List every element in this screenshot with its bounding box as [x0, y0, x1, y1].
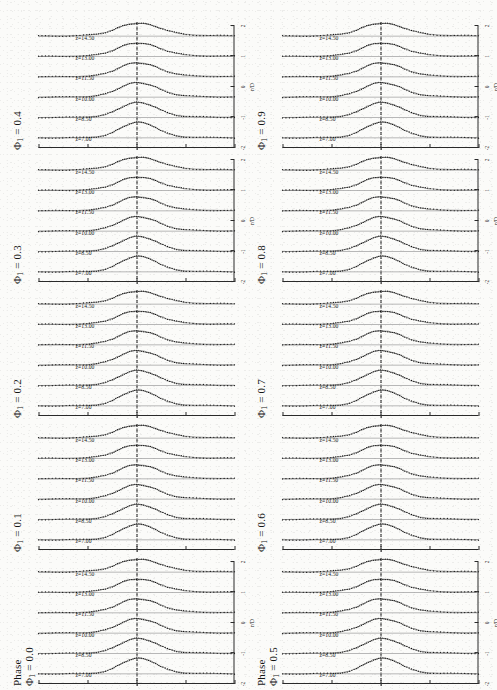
- measurement-markers: [37, 523, 234, 541]
- measurement-markers: [281, 618, 478, 635]
- model-curve: [38, 370, 234, 385]
- model-curve: [282, 599, 478, 613]
- model-curve: [282, 658, 478, 674]
- model-curve: [282, 197, 478, 211]
- model-curve: [282, 23, 478, 36]
- curves-phi-0-3: [38, 160, 234, 282]
- measurement-markers: [281, 350, 478, 367]
- model-curve: [282, 579, 478, 592]
- model-curve: [38, 311, 234, 324]
- panel-row-top: PhaseΦ1 = 0.0-2-1012r/Dz=14.50z=13.00z=1…: [8, 0, 244, 690]
- x-tick-label: -2: [239, 280, 245, 284]
- model-curve: [38, 63, 234, 77]
- measurement-markers: [281, 43, 478, 57]
- panel-header-phi-0-5: PhaseΦ1 = 0.5: [254, 647, 282, 686]
- model-curve: [282, 638, 478, 653]
- measurement-markers: [37, 216, 234, 233]
- model-curve: [38, 216, 234, 231]
- panel-condition-label: Φ1 = 0.9: [254, 111, 270, 150]
- panel-header-phi-0-6: Φ1 = 0.6: [254, 513, 270, 552]
- model-curve: [38, 425, 234, 438]
- model-curve: [282, 484, 478, 499]
- panel-condition-label: Φ1 = 0.2: [10, 379, 26, 418]
- x-tick-label: 1: [483, 591, 489, 594]
- measurement-markers: [281, 389, 478, 407]
- measurement-markers: [281, 484, 478, 501]
- model-curve: [38, 236, 234, 251]
- measurement-markers: [37, 311, 234, 325]
- measurement-markers: [37, 235, 234, 252]
- plot-area-phi-0-8: -2-1012r/Dz=14.50z=13.00z=11.50z=10.00z=…: [282, 160, 478, 282]
- panel-phi-0-6: Φ1 = 0.6z=14.50z=13.00z=11.50z=10.00z=8.…: [252, 422, 488, 556]
- plot-area-phi-0-7: z=14.50z=13.00z=11.50z=10.00z=8.50z=7.00: [282, 294, 478, 416]
- model-curve: [282, 559, 478, 572]
- measurement-markers: [37, 196, 234, 211]
- x-axis-label: r/D: [492, 83, 497, 91]
- measurement-markers: [281, 503, 478, 520]
- model-curve: [38, 331, 234, 345]
- measurement-markers: [37, 82, 234, 99]
- panel-condition-label: Φ1 = 0.3: [10, 245, 26, 284]
- x-tick-label: 1: [239, 189, 245, 192]
- curves-phi-0-0: [38, 562, 234, 684]
- model-curve: [38, 350, 234, 365]
- panel-phi-0-2: Φ1 = 0.2z=14.50z=13.00z=11.50z=10.00z=8.…: [8, 288, 244, 422]
- quantity-label: Phase: [254, 647, 266, 686]
- panel-header-phi-0-8: Φ1 = 0.8: [254, 245, 270, 284]
- model-curve: [282, 256, 478, 272]
- panel-phi-0-4: Φ1 = 0.4-2-1012r/Dz=14.50z=13.00z=11.50z…: [8, 20, 244, 154]
- plot-area-phi-0-1: z=14.50z=13.00z=11.50z=10.00z=8.50z=7.00: [38, 428, 234, 550]
- model-curve: [38, 658, 234, 674]
- model-curve: [282, 236, 478, 251]
- x-tick-label: -1: [239, 651, 245, 655]
- x-tick-label: 2: [239, 159, 245, 162]
- panel-header-phi-0-4: Φ1 = 0.4: [10, 111, 26, 150]
- plot-area-phi-0-2: z=14.50z=13.00z=11.50z=10.00z=8.50z=7.00: [38, 294, 234, 416]
- x-axis-label: r/D: [492, 217, 497, 225]
- model-curve: [38, 504, 234, 519]
- model-curve: [38, 579, 234, 592]
- model-curve: [282, 216, 478, 231]
- panel-condition-label: Φ1 = 0.5: [266, 647, 282, 686]
- panel-phi-0-7: Φ1 = 0.7z=14.50z=13.00z=11.50z=10.00z=8.…: [252, 288, 488, 422]
- measurement-markers: [37, 445, 234, 459]
- panel-condition-label: Φ1 = 0.7: [254, 379, 270, 418]
- measurement-markers: [281, 101, 478, 118]
- model-curve: [282, 122, 478, 138]
- measurement-markers: [37, 637, 234, 654]
- model-curve: [38, 291, 234, 304]
- panel-phi-0-3: Φ1 = 0.3-2-1012r/Dz=14.50z=13.00z=11.50z…: [8, 154, 244, 288]
- model-curve: [282, 177, 478, 190]
- measurement-markers: [37, 598, 234, 613]
- panel-header-phi-0-3: Φ1 = 0.3: [10, 245, 26, 284]
- measurement-markers: [281, 330, 478, 345]
- curves-phi-0-6: [282, 428, 478, 550]
- measurement-markers: [37, 579, 234, 593]
- panel-header-phi-0-7: Φ1 = 0.7: [254, 379, 270, 418]
- x-tick-label: -2: [483, 280, 489, 284]
- model-curve: [38, 638, 234, 653]
- measurement-markers: [37, 618, 234, 635]
- x-tick-label: 1: [483, 55, 489, 58]
- plot-area-phi-0-6: z=14.50z=13.00z=11.50z=10.00z=8.50z=7.00: [282, 428, 478, 550]
- model-curve: [38, 465, 234, 479]
- panel-condition-label: Φ1 = 0.4: [10, 111, 26, 150]
- panel-phi-0-8: Φ1 = 0.8-2-1012r/Dz=14.50z=13.00z=11.50z…: [252, 154, 488, 288]
- x-axis-label: r/D: [492, 619, 497, 627]
- measurement-markers: [281, 369, 478, 386]
- measurement-markers: [281, 62, 478, 77]
- model-curve: [38, 618, 234, 633]
- x-tick-label: 2: [239, 561, 245, 564]
- model-curve: [282, 350, 478, 365]
- measurement-markers: [281, 177, 478, 191]
- measurement-markers: [37, 121, 234, 139]
- measurement-markers: [281, 121, 478, 139]
- model-curve: [38, 102, 234, 117]
- measurement-markers: [37, 62, 234, 77]
- model-curve: [38, 445, 234, 458]
- measurement-markers: [37, 350, 234, 367]
- model-curve: [38, 256, 234, 272]
- model-curve: [38, 599, 234, 613]
- model-curve: [282, 82, 478, 97]
- panel-header-phi-0-9: Φ1 = 0.9: [254, 111, 270, 150]
